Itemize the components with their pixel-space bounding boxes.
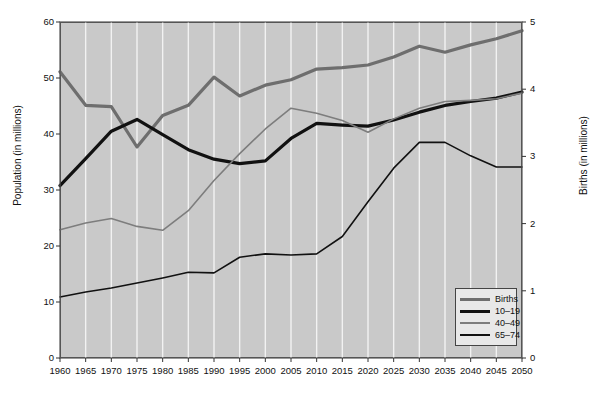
x-tick-2005: 2005 xyxy=(277,365,305,376)
y-tick-left-40: 40 xyxy=(14,128,54,139)
y-tick-right-2: 2 xyxy=(530,218,550,229)
chart-legend: Births 10–19 40–49 65–74 xyxy=(455,288,517,346)
y-tick-left-0: 0 xyxy=(14,352,54,363)
x-tick-2030: 2030 xyxy=(405,365,433,376)
legend-swatch-births xyxy=(460,298,490,301)
x-tick-2025: 2025 xyxy=(380,365,408,376)
x-tick-1995: 1995 xyxy=(226,365,254,376)
y-tick-right-1: 1 xyxy=(530,285,550,296)
x-tick-2040: 2040 xyxy=(457,365,485,376)
legend-label-65-74: 65–74 xyxy=(495,330,520,340)
chart-figure: Population (in millions) Births (in mill… xyxy=(0,0,598,400)
legend-item-births: Births xyxy=(460,293,512,305)
x-tick-1985: 1985 xyxy=(174,365,202,376)
x-tick-1965: 1965 xyxy=(72,365,100,376)
y-tick-right-0: 0 xyxy=(530,352,550,363)
y-tick-left-10: 10 xyxy=(14,296,54,307)
x-tick-2000: 2000 xyxy=(251,365,279,376)
legend-swatch-10-19 xyxy=(460,310,490,313)
legend-swatch-40-49 xyxy=(460,322,490,324)
x-tick-2035: 2035 xyxy=(431,365,459,376)
legend-label-births: Births xyxy=(495,294,518,304)
legend-item-65-74: 65–74 xyxy=(460,329,512,341)
y-axis-left-title: Population (in millions) xyxy=(12,71,23,241)
y-axis-right-title: Births (in millions) xyxy=(578,71,589,241)
y-tick-right-4: 4 xyxy=(530,83,550,94)
legend-item-10-19: 10–19 xyxy=(460,305,512,317)
x-tick-1980: 1980 xyxy=(149,365,177,376)
y-tick-left-30: 30 xyxy=(14,184,54,195)
legend-label-40-49: 40–49 xyxy=(495,318,520,328)
x-tick-2050: 2050 xyxy=(508,365,536,376)
legend-swatch-65-74 xyxy=(460,334,490,336)
y-tick-left-20: 20 xyxy=(14,240,54,251)
legend-label-10-19: 10–19 xyxy=(495,306,520,316)
x-tick-2010: 2010 xyxy=(303,365,331,376)
legend-item-40-49: 40–49 xyxy=(460,317,512,329)
x-tick-1975: 1975 xyxy=(123,365,151,376)
x-tick-1960: 1960 xyxy=(46,365,74,376)
x-tick-2045: 2045 xyxy=(482,365,510,376)
x-tick-1990: 1990 xyxy=(200,365,228,376)
x-tick-2015: 2015 xyxy=(328,365,356,376)
y-tick-left-50: 50 xyxy=(14,72,54,83)
y-tick-left-60: 60 xyxy=(14,16,54,27)
x-tick-2020: 2020 xyxy=(354,365,382,376)
y-tick-right-5: 5 xyxy=(530,16,550,27)
x-tick-1970: 1970 xyxy=(97,365,125,376)
y-tick-right-3: 3 xyxy=(530,150,550,161)
